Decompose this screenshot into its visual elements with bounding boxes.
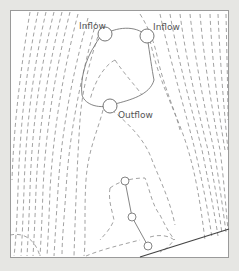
inflow-right-label: Inflow — [153, 22, 180, 32]
contour-diagram: Inflow Inflow Outflow — [0, 0, 239, 271]
inflow-left-label: Inflow — [79, 21, 106, 31]
outflow-marker — [103, 99, 117, 113]
node-1-marker — [121, 177, 129, 185]
node-3-marker — [144, 242, 152, 250]
inflow-right-marker — [140, 29, 154, 43]
node-2-marker — [128, 213, 136, 221]
outflow-label: Outflow — [118, 110, 153, 120]
plot-frame — [11, 11, 229, 258]
